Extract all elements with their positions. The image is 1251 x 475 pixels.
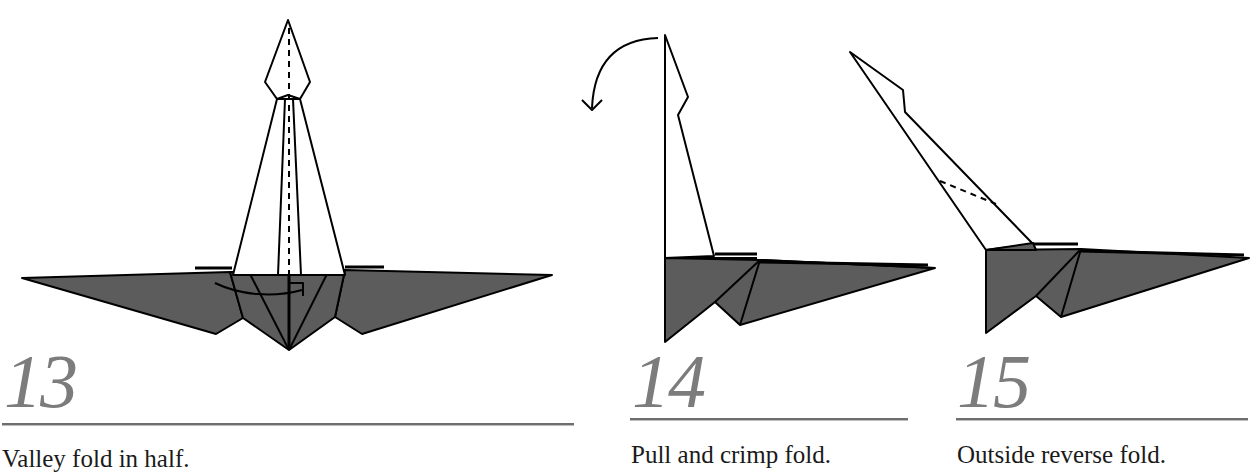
body	[665, 258, 935, 342]
left-wing	[22, 272, 243, 334]
body	[986, 249, 1249, 333]
step-13-rule	[2, 423, 574, 426]
step-13-diagram	[22, 20, 552, 350]
crimp-arrow-icon	[592, 38, 658, 108]
step-14-rule	[630, 418, 908, 421]
step-number-13: 13	[4, 343, 76, 419]
step-15-diagram	[850, 52, 1249, 333]
step-13-caption: Valley fold in half.	[2, 446, 189, 471]
step-15-rule	[956, 418, 1248, 421]
step-15-caption: Outside reverse fold.	[957, 442, 1166, 467]
fold-diagrams	[0, 0, 1251, 475]
step-14-caption: Pull and crimp fold.	[631, 442, 831, 467]
step-number-15: 15	[957, 343, 1029, 419]
step-number-14: 14	[632, 343, 704, 419]
neck	[665, 35, 714, 258]
neck	[850, 52, 1033, 250]
head	[265, 20, 310, 99]
right-wing	[335, 270, 552, 334]
